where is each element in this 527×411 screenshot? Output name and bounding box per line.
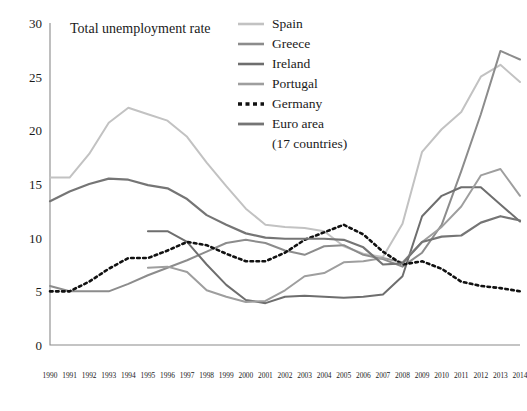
y-tick-label: 20 [29,123,42,138]
x-tick-label: 2012 [473,371,488,380]
legend-label: Portugal [272,76,318,91]
series-line-spain [50,65,520,257]
x-tick-label: 1994 [121,371,136,380]
chart-title: Total unemployment rate [70,21,211,36]
legend-label: Spain [272,16,303,31]
x-tick-label: 2008 [395,371,410,380]
legend-label: Greece [272,36,310,51]
x-tick-label: 1992 [82,371,97,380]
x-tick-label: 1990 [43,371,58,380]
x-tick-label: 2000 [238,371,253,380]
x-tick-label: 1993 [101,371,116,380]
y-axis-tick-labels: 051015202530 [29,16,42,353]
x-tick-label: 2014 [513,371,527,380]
x-tick-label: 1998 [199,371,214,380]
x-tick-label: 2004 [317,371,332,380]
x-axis-tick-labels: 1990199119921993199419951996199719981999… [43,371,527,380]
x-tick-label: 1999 [219,371,234,380]
x-tick-label: 1996 [160,371,175,380]
x-tick-label: 2009 [415,371,430,380]
x-tick-label: 1991 [62,371,77,380]
y-tick-label: 0 [36,338,43,353]
y-tick-label: 25 [29,70,42,85]
x-tick-label: 2001 [258,371,273,380]
x-tick-label: 2010 [434,371,449,380]
legend-label: Germany [272,96,322,111]
legend-label-continuation: (17 countries) [272,136,347,151]
x-tick-label: 2006 [356,371,371,380]
x-tick-label: 2005 [336,371,351,380]
y-tick-label: 15 [29,177,42,192]
legend-label: Ireland [272,56,310,71]
x-tick-label: 2003 [297,371,312,380]
y-tick-label: 10 [29,231,42,246]
chart-legend: SpainGreeceIrelandPortugalGermanyEuro ar… [238,16,347,151]
x-tick-label: 1997 [180,371,195,380]
y-tick-label: 5 [36,284,43,299]
series-line-germany [50,225,520,292]
x-tick-label: 2002 [278,371,293,380]
y-tick-label: 30 [29,16,42,31]
x-tick-label: 2007 [376,371,391,380]
x-tick-label: 2013 [493,371,508,380]
unemployment-rate-chart: 051015202530 199019911992199319941995199… [0,0,527,411]
chart-svg: 051015202530 199019911992199319941995199… [0,0,527,411]
x-tick-label: 1995 [141,371,156,380]
legend-label: Euro area [272,116,324,131]
x-tick-label: 2011 [454,371,469,380]
